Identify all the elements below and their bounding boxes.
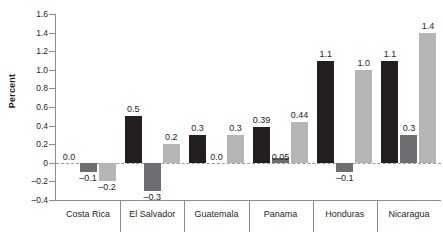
bar (400, 135, 417, 163)
x-category-label: Nicaragua (377, 209, 441, 219)
bar-value-label: –0.3 (135, 192, 169, 202)
y-tick-label: –0.4 (8, 195, 48, 205)
bar-value-label: 0.44 (283, 110, 317, 120)
y-tick (49, 33, 55, 34)
bar (317, 61, 334, 163)
bar (336, 163, 353, 172)
y-tick (49, 126, 55, 127)
bar-value-label: 0.05 (264, 152, 298, 162)
bar-value-label: 1.0 (347, 58, 381, 68)
y-tick (49, 107, 55, 108)
bar (80, 163, 97, 172)
y-tick (49, 163, 55, 164)
y-tick (49, 51, 55, 52)
bar (163, 144, 180, 163)
bar-value-label: 0.0 (52, 152, 86, 162)
y-tick (49, 88, 55, 89)
bar-value-label: –0.2 (90, 182, 124, 192)
bar-chart: Percent 1.61.41.21.00.80.60.40.20–0.2–0.… (0, 0, 443, 233)
bar-value-label: 0.0 (199, 152, 233, 162)
bar-value-label: 1.1 (373, 49, 407, 59)
y-tick-label: 0.4 (8, 121, 48, 131)
x-category-label: Guatemala (184, 209, 248, 219)
y-tick-label: 1.6 (8, 9, 48, 19)
bar-value-label: 0.2 (154, 132, 188, 142)
bar (355, 70, 372, 163)
y-axis-line (55, 14, 56, 201)
y-tick-label: 0.8 (8, 83, 48, 93)
bar (381, 61, 398, 163)
y-tick-label: –0.2 (8, 176, 48, 186)
bar (125, 116, 142, 163)
bar (144, 163, 161, 191)
bar-value-label: 1.4 (411, 21, 443, 31)
y-tick-label: 1.0 (8, 65, 48, 75)
bar-value-label: 0.3 (180, 123, 214, 133)
x-category-label: Panama (249, 209, 313, 219)
y-tick (49, 181, 55, 182)
y-tick (49, 14, 55, 15)
bar-value-label: 0.5 (116, 104, 150, 114)
y-tick-label: 0.6 (8, 102, 48, 112)
y-tick-label: 1.2 (8, 46, 48, 56)
x-category-label: Honduras (313, 209, 377, 219)
bar-value-label: 0.39 (245, 115, 279, 125)
y-tick (49, 70, 55, 71)
bar (419, 33, 436, 163)
y-tick (49, 144, 55, 145)
bar-value-label: 1.1 (309, 49, 343, 59)
x-category-label: El Salvador (120, 209, 184, 219)
y-tick-label: 0 (8, 158, 48, 168)
bar-value-label: 0.3 (392, 123, 426, 133)
y-tick-label: 0.2 (8, 139, 48, 149)
x-category-label: Costa Rica (56, 209, 120, 219)
y-tick-label: 1.4 (8, 28, 48, 38)
y-tick (49, 200, 55, 201)
bar-value-label: –0.1 (328, 173, 362, 183)
